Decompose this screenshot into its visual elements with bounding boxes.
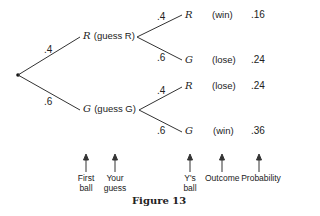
caption-your-guess: Your guess: [103, 174, 127, 194]
caption-line: Probability: [241, 174, 281, 184]
figure-caption: Figure 13: [132, 196, 186, 206]
caption-ys-ball: Y's ball: [178, 174, 202, 194]
leaf-probability-1: .16: [251, 10, 265, 20]
leaf-ball-2: G: [185, 55, 193, 65]
leaf-ball-3: R: [185, 81, 193, 91]
leaf-outcome-2: (lose): [212, 55, 236, 65]
leaf-probability-4: .36: [251, 126, 265, 136]
leaf-ball-1: R: [185, 10, 193, 20]
guess-r-label: (guess R): [94, 30, 135, 41]
caption-first-ball: First ball: [74, 174, 98, 194]
node-g-label: G: [83, 103, 91, 114]
leaf-ball-4: G: [185, 126, 193, 136]
leaf-outcome-1: (win): [212, 10, 233, 20]
caption-line: guess: [103, 184, 127, 194]
leaf-probability-2: .24: [251, 55, 265, 65]
leaf-outcome-3: (lose): [212, 81, 236, 91]
node-r-label: R: [83, 30, 91, 41]
leaf-prob-3: .4: [157, 86, 165, 96]
caption-line: ball: [178, 184, 202, 194]
caption-probability: Probability: [241, 174, 281, 184]
node-r-guess-r: R (guess R): [83, 31, 135, 41]
branch-prob-r: .4: [44, 45, 52, 55]
caption-line: Outcome: [205, 174, 239, 184]
node-g-guess-g: G (guess G): [83, 104, 136, 114]
leaf-outcome-4: (win): [213, 126, 234, 136]
caption-line: ball: [74, 184, 98, 194]
branch-prob-g: .6: [44, 97, 52, 107]
leaf-prob-1: .4: [157, 12, 165, 22]
leaf-prob-2: .6: [157, 53, 165, 63]
leaf-probability-3: .24: [251, 81, 265, 91]
guess-g-label: (guess G): [94, 103, 136, 114]
caption-outcome: Outcome: [205, 174, 239, 184]
leaf-prob-4: .6: [157, 126, 165, 136]
